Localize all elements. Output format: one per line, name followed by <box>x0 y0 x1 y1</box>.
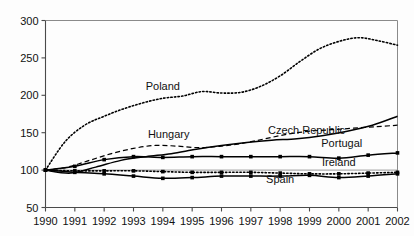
series-marker <box>249 155 253 159</box>
y-axis-tick-label: 300 <box>20 15 38 27</box>
x-axis-tick-label: 2001 <box>356 215 380 227</box>
series-marker <box>73 165 77 169</box>
series-marker <box>161 156 165 160</box>
y-axis-tick-label: 150 <box>20 127 38 139</box>
chart-background <box>0 0 414 236</box>
chart-container: PolandHungaryCzech RepublicPortugalIrela… <box>0 0 414 236</box>
series-marker <box>132 169 136 173</box>
x-axis-tick-label: 1993 <box>121 215 145 227</box>
series-marker <box>161 177 165 181</box>
series-marker <box>366 174 370 178</box>
series-marker <box>102 158 106 162</box>
x-axis-tick-label: 2002 <box>385 215 409 227</box>
x-axis-tick-label: 1997 <box>239 215 263 227</box>
x-axis-tick-label: 1995 <box>180 215 204 227</box>
series-marker <box>337 176 341 180</box>
series-marker <box>337 172 341 176</box>
series-label-ireland: Ireland <box>322 156 356 168</box>
series-marker <box>396 172 400 176</box>
y-axis-tick-label: 100 <box>20 164 38 176</box>
series-label-hungary: Hungary <box>148 128 190 140</box>
series-label-poland: Poland <box>146 80 180 92</box>
series-marker <box>396 151 400 155</box>
series-marker <box>308 174 312 178</box>
series-marker <box>73 171 77 175</box>
x-axis-tick-label: 2000 <box>327 215 351 227</box>
series-marker <box>190 176 194 180</box>
x-axis-tick-label: 1994 <box>151 215 175 227</box>
series-marker <box>249 171 253 175</box>
line-chart: PolandHungaryCzech RepublicPortugalIrela… <box>0 0 414 236</box>
x-axis-tick-label: 1991 <box>63 215 87 227</box>
x-axis-tick-label: 1996 <box>209 215 233 227</box>
series-marker <box>132 174 136 178</box>
series-marker <box>308 155 312 159</box>
series-marker <box>249 174 253 178</box>
series-label-czech-republic: Czech Republic <box>268 124 346 136</box>
series-label-spain: Spain <box>266 173 294 185</box>
y-axis-tick-label: 200 <box>20 89 38 101</box>
x-axis-tick-label: 1990 <box>33 215 57 227</box>
x-axis-tick-label: 1999 <box>297 215 321 227</box>
series-marker <box>161 170 165 174</box>
series-marker <box>220 171 224 175</box>
series-marker <box>102 172 106 176</box>
y-axis-tick-label: 50 <box>26 202 38 214</box>
x-axis-tick-label: 1992 <box>92 215 116 227</box>
series-marker <box>190 155 194 159</box>
series-marker <box>220 155 224 159</box>
series-marker <box>132 155 136 159</box>
y-axis-tick-label: 250 <box>20 52 38 64</box>
series-marker <box>278 155 282 159</box>
series-marker <box>220 174 224 178</box>
series-marker <box>44 168 48 172</box>
x-axis-tick-label: 1998 <box>268 215 292 227</box>
series-marker <box>190 171 194 175</box>
series-marker <box>366 153 370 157</box>
series-label-portugal: Portugal <box>321 137 362 149</box>
